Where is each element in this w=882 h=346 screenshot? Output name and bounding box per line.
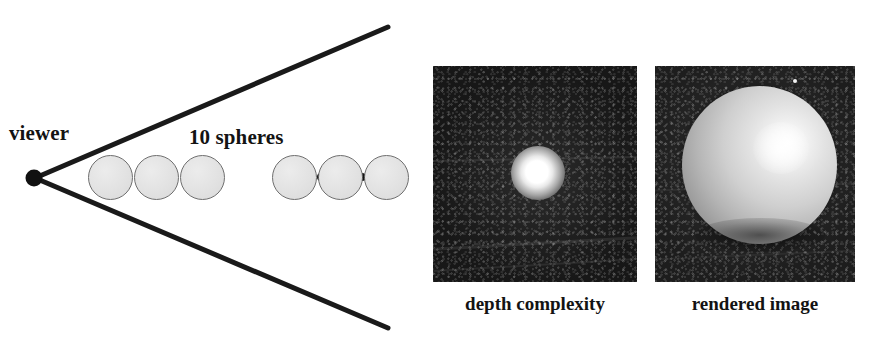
sphere-count-label: 10 spheres bbox=[189, 125, 284, 150]
viewer-label: viewer bbox=[9, 121, 69, 146]
rendered-image-image bbox=[655, 66, 855, 282]
lower-ray-line bbox=[35, 178, 388, 328]
contact-shadow bbox=[695, 218, 825, 252]
rendered-image-caption: rendered image bbox=[655, 293, 855, 315]
depth-complexity-hotspot bbox=[511, 146, 565, 200]
depth-complexity-caption: depth complexity bbox=[433, 293, 637, 315]
sphere bbox=[318, 155, 363, 200]
sphere bbox=[134, 155, 179, 200]
sphere bbox=[88, 155, 133, 200]
sphere bbox=[180, 155, 225, 200]
figure-root: viewer 10 spheres depth bbox=[0, 0, 882, 346]
specular-highlight bbox=[753, 122, 809, 174]
depth-complexity-image bbox=[433, 66, 637, 282]
sphere bbox=[364, 155, 409, 200]
viewer-point-dot bbox=[26, 170, 43, 187]
viewer-frustum-diagram: viewer 10 spheres bbox=[0, 0, 420, 346]
scan-speck bbox=[793, 79, 797, 83]
sphere bbox=[272, 155, 317, 200]
